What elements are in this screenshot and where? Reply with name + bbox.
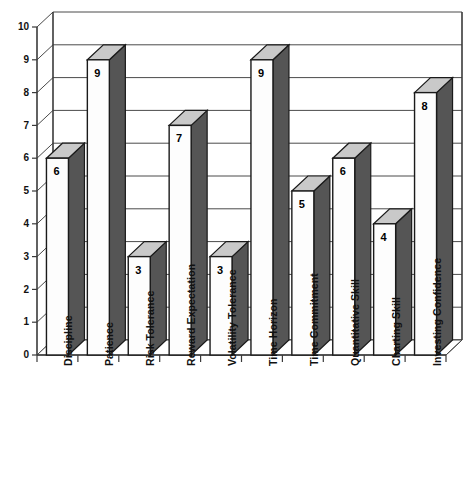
y-axis-tick-label: 5 (23, 185, 29, 196)
bar-value-label: 4 (381, 231, 388, 243)
bar-value-label: 7 (176, 132, 182, 144)
y-axis-tick-label: 7 (23, 120, 29, 131)
bar-side-face (109, 45, 125, 355)
x-axis-category-label: Quantitative Skill (349, 279, 361, 366)
bar-value-label: 9 (258, 67, 264, 79)
x-axis-category-label: Risk Tolerance (144, 291, 156, 366)
x-axis-category-label: Time Commitment (308, 273, 320, 366)
bar-value-label: 8 (421, 100, 427, 112)
x-axis-category-label: Time Horizon (267, 298, 279, 366)
x-axis-category-label: Investing Confidence (431, 258, 443, 366)
bar-chart: 6937395648 012345678910 DisciplinePatien… (0, 0, 473, 477)
bar-front-face (87, 60, 109, 355)
x-axis-category-label: Charting Skill (390, 297, 402, 366)
y-axis-tick-label: 2 (23, 284, 29, 295)
y-axis-labels: 012345678910 (18, 21, 37, 360)
y-axis-tick-label: 0 (23, 349, 29, 360)
bar-value-label: 3 (217, 264, 223, 276)
x-axis-ticks (37, 355, 446, 362)
y-axis-tick-label: 1 (23, 316, 29, 327)
y-axis-tick-label: 9 (23, 54, 29, 65)
bar-value-label: 6 (53, 165, 59, 177)
y-axis-tick-label: 4 (23, 218, 29, 229)
bar-value-label: 3 (135, 264, 141, 276)
bar-value-label: 5 (299, 198, 305, 210)
bar-value-label: 9 (94, 67, 100, 79)
y-axis-tick-label: 8 (23, 87, 29, 98)
y-axis-tick-label: 3 (23, 251, 29, 262)
bar-value-label: 6 (340, 165, 346, 177)
y-axis-tick-label: 6 (23, 152, 29, 163)
x-axis-category-label: Discipline (62, 315, 74, 366)
x-axis-category-label: Patience (103, 322, 115, 366)
x-axis-category-label: Reward Expectation (185, 264, 197, 366)
y-axis-tick-label: 10 (18, 21, 30, 32)
plot-area: 6937395648 012345678910 (0, 0, 473, 477)
x-axis-category-label: Volatility Tolerance (226, 269, 238, 366)
